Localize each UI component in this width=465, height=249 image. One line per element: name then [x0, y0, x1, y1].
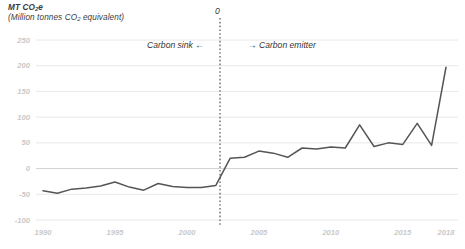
- y-tick-label-250: 250: [0, 36, 30, 45]
- y-tick-label--100: -100: [0, 216, 30, 225]
- x-tick-label-2015: 2015: [383, 228, 423, 237]
- y-tick-label-150: 150: [0, 87, 30, 96]
- annotation-carbon-emitter: → Carbon emitter: [248, 40, 316, 50]
- x-tick-label-2010: 2010: [311, 228, 351, 237]
- data-line-net-emissions: [43, 67, 446, 193]
- x-tick-label-2005: 2005: [239, 228, 279, 237]
- x-tick-label-2000: 2000: [167, 228, 207, 237]
- y-tick-label-50: 50: [0, 138, 30, 147]
- y-tick-label-100: 100: [0, 113, 30, 122]
- x-tick-label-2018: 2018: [426, 228, 465, 237]
- y-tick-label--50: -50: [0, 190, 30, 199]
- y-tick-label-200: 200: [0, 61, 30, 70]
- annotation-carbon-sink: Carbon sink ←: [147, 40, 204, 50]
- x-tick-label-1995: 1995: [95, 228, 135, 237]
- chart-container: MT CO2e (Million tonnes CO2 equivalent) …: [0, 0, 465, 249]
- x-tick-label-1990: 1990: [23, 228, 63, 237]
- zero-crossing-marker-label: 0: [215, 6, 220, 16]
- y-tick-label-0: 0: [0, 164, 30, 173]
- chart-plot-area: [0, 0, 465, 249]
